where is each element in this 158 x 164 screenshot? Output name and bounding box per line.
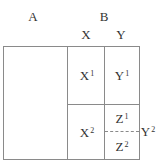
- dashed-divider-z: [105, 131, 139, 132]
- cell-z2: Z2: [116, 140, 129, 155]
- divider-x-y: [104, 46, 105, 160]
- label-x: X: [81, 28, 90, 41]
- label-y2: Y2: [141, 125, 155, 140]
- label-a: A: [28, 10, 37, 23]
- label-b: B: [100, 10, 109, 23]
- box-left-border: [3, 46, 4, 160]
- cell-x1: X1: [80, 69, 94, 84]
- divider-row-1-2: [67, 104, 140, 105]
- cell-y1: Y1: [115, 69, 129, 84]
- box-bottom-border: [3, 159, 140, 160]
- box-top-border: [3, 46, 140, 47]
- cell-x2: X2: [80, 126, 94, 141]
- label-y: Y: [116, 28, 125, 41]
- divider-a-b: [67, 46, 68, 160]
- box-right-border: [139, 46, 140, 160]
- cell-z1: Z1: [116, 112, 129, 127]
